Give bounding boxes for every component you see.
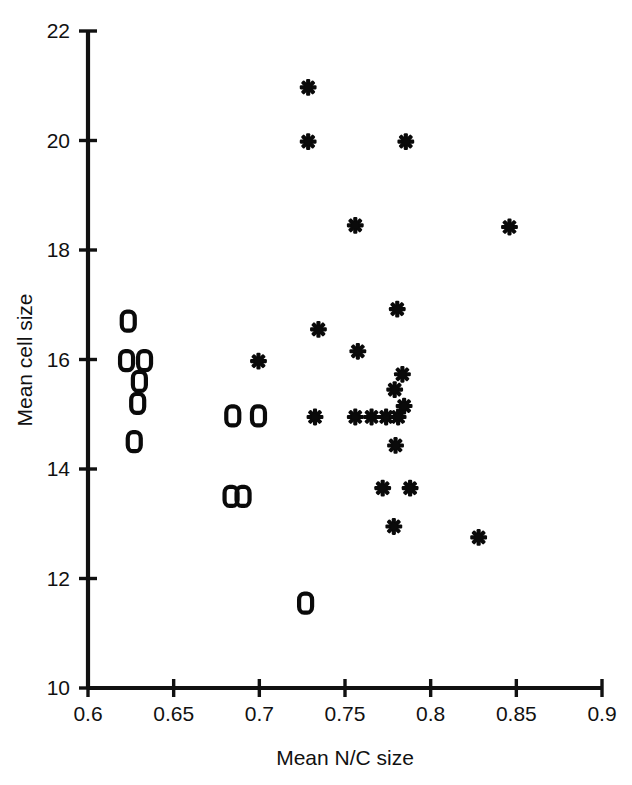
x-axis-title: Mean N/C size xyxy=(276,746,414,769)
data-point-open xyxy=(133,372,146,391)
data-point-open xyxy=(299,594,312,613)
data-point-asterisk xyxy=(470,529,487,546)
y-tick-label: 10 xyxy=(47,676,70,699)
x-tick-label: 0.85 xyxy=(496,702,537,725)
axes-group xyxy=(88,31,602,688)
data-point-asterisk xyxy=(394,366,411,383)
x-tick-label: 0.75 xyxy=(325,702,366,725)
data-point-open xyxy=(252,406,265,425)
y-tick-label-group: 10121416182022 xyxy=(47,19,71,699)
data-point-asterisk xyxy=(349,343,366,360)
data-point-asterisk xyxy=(363,409,380,426)
data-point-open xyxy=(122,312,135,331)
data-point-asterisk xyxy=(402,480,419,497)
y-tick-label: 12 xyxy=(47,567,70,590)
data-point-asterisk xyxy=(389,301,406,318)
data-point-open xyxy=(226,406,239,425)
data-point-open xyxy=(128,432,141,451)
x-tick-label: 0.6 xyxy=(73,702,102,725)
x-tick-label-group: 0.60.650.70.750.80.850.9 xyxy=(73,702,616,725)
data-point-asterisk xyxy=(300,79,317,96)
x-tick-label: 0.8 xyxy=(416,702,445,725)
y-tick-label: 22 xyxy=(47,19,70,42)
x-tick-label: 0.65 xyxy=(153,702,194,725)
scatter-plot-figure: 10121416182022 0.60.650.70.750.80.850.9 … xyxy=(0,0,632,785)
plot-canvas: 10121416182022 0.60.650.70.750.80.850.9 … xyxy=(0,0,632,785)
data-point-asterisk xyxy=(374,480,391,497)
data-point-group xyxy=(120,79,518,613)
data-point-asterisk xyxy=(385,518,402,535)
data-point-asterisk xyxy=(347,409,364,426)
x-tick-label: 0.7 xyxy=(245,702,274,725)
x-tick-label: 0.9 xyxy=(587,702,616,725)
data-point-asterisk xyxy=(387,437,404,454)
data-point-asterisk xyxy=(310,321,327,338)
y-tick-label: 14 xyxy=(47,457,71,480)
data-point-asterisk xyxy=(347,217,364,234)
data-point-asterisk xyxy=(397,133,414,150)
data-point-asterisk xyxy=(307,409,324,426)
data-point-asterisk xyxy=(501,219,518,236)
data-point-open xyxy=(237,487,250,506)
data-point-open xyxy=(138,351,151,370)
data-point-open xyxy=(120,351,133,370)
data-point-open xyxy=(131,394,144,413)
data-point-asterisk xyxy=(300,133,317,150)
y-tick-label: 18 xyxy=(47,238,70,261)
y-tick-label: 20 xyxy=(47,129,70,152)
y-axis-title: Mean cell size xyxy=(13,293,36,426)
data-point-asterisk xyxy=(386,381,403,398)
data-point-asterisk xyxy=(390,409,407,426)
data-point-asterisk xyxy=(250,353,267,370)
y-tick-label: 16 xyxy=(47,348,70,371)
